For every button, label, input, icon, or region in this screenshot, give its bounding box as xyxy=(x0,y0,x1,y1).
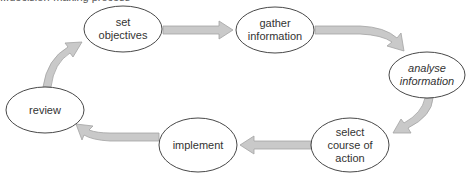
label-line: analyse xyxy=(400,62,454,75)
label-line: course of xyxy=(327,139,372,152)
arrow-gather-to-analyse xyxy=(315,26,404,51)
label-implement: implement xyxy=(173,139,224,152)
label-line: select xyxy=(327,126,372,139)
label-gather-information: gather information xyxy=(248,17,302,43)
arrow-review-to-set xyxy=(43,42,82,87)
label-select-course-of-action: select course of action xyxy=(327,126,372,165)
label-line: information xyxy=(400,75,454,88)
arrow-implement-to-review xyxy=(76,124,159,141)
arrow-set-to-gather xyxy=(163,21,233,39)
label-line: objectives xyxy=(99,29,148,42)
label-line: implement xyxy=(173,139,224,152)
label-analyse-information: analyse information xyxy=(400,62,454,88)
nodes xyxy=(6,6,465,172)
label-line: review xyxy=(29,104,61,117)
label-line: information xyxy=(248,30,302,43)
label-set-objectives: set objectives xyxy=(99,16,148,42)
label-line: gather xyxy=(248,17,302,30)
arrow-analyse-to-select xyxy=(393,98,433,133)
arrow-select-to-implement xyxy=(240,136,311,154)
label-review: review xyxy=(29,104,61,117)
label-line: set xyxy=(99,16,148,29)
label-line: action xyxy=(327,152,372,165)
decision-cycle-diagram xyxy=(0,0,468,175)
